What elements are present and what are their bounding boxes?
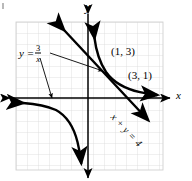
graph-figure: y x (1, 3) (3, 1) y = 3 x x + y = 4: [0, 0, 192, 181]
hyperbola-equation-lhs: y =: [19, 48, 34, 59]
fraction-denominator: x: [35, 54, 41, 63]
hyperbola-equation-label: y = 3 x: [19, 44, 41, 64]
graph-canvas: [0, 0, 192, 181]
x-axis-label: x: [176, 90, 181, 101]
point-label-3-1: (3, 1): [128, 70, 152, 81]
point-label-1-3: (1, 3): [111, 46, 135, 57]
fraction-numerator: 3: [35, 44, 41, 53]
fraction-three-over-x: 3 x: [35, 44, 41, 64]
y-axis-label: y: [85, 1, 90, 13]
